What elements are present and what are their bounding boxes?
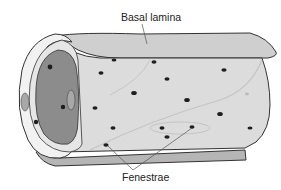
fenestrae-label: Fenestrae <box>122 172 169 183</box>
capillary-illustration <box>0 0 281 190</box>
endothelial-nucleus-left <box>21 93 29 111</box>
endothelial-nucleus-right <box>67 90 75 110</box>
basal-lamina-label: Basal lamina <box>121 12 181 23</box>
basal-lamina-top <box>55 33 276 58</box>
fenestrated-capillary-diagram: Basal lamina Fenestrae <box>0 0 281 190</box>
